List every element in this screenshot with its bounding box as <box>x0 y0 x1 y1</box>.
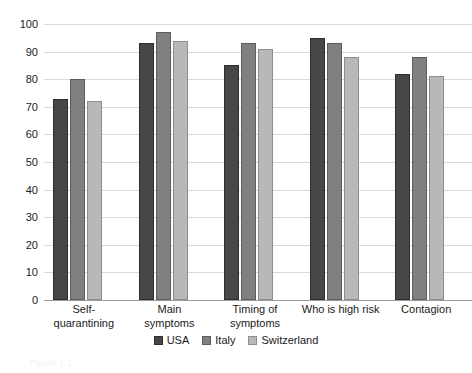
category-label-line: symptoms <box>130 316 210 330</box>
y-axis-tick-label: 90 <box>26 46 38 57</box>
bar <box>412 57 427 300</box>
category-axis-labels: Self-quarantiningMainsymptomsTiming ofsy… <box>44 302 472 330</box>
category-label: Self-quarantining <box>44 302 130 330</box>
bar <box>327 43 342 300</box>
y-axis-tick-label: 70 <box>26 101 38 112</box>
bar-group <box>130 24 216 300</box>
category-label-line: Main <box>130 302 210 316</box>
category-label-line: Self-quarantining <box>44 302 124 330</box>
bar <box>139 43 154 300</box>
legend-swatch-icon <box>202 336 211 345</box>
y-axis-tick-label: 100 <box>20 19 38 30</box>
y-axis-tick-label: 80 <box>26 74 38 85</box>
figure-caption: Figure 1.1 <box>30 358 73 368</box>
category-label-line: Contagion <box>386 302 466 316</box>
bar-group <box>44 24 130 300</box>
bar <box>241 43 256 300</box>
category-label: Who is high risk <box>301 302 387 330</box>
plot-area: 0102030405060708090100 <box>44 24 472 300</box>
axis-line-zero: 0 <box>44 300 472 301</box>
legend-item[interactable]: USA <box>154 334 190 346</box>
chart-legend: USAItalySwitzerland <box>0 334 472 346</box>
bar <box>224 65 239 300</box>
bar <box>173 41 188 300</box>
category-label-line: Timing of <box>215 302 295 316</box>
y-axis-tick-label: 20 <box>26 239 38 250</box>
y-axis-tick-label: 0 <box>32 295 38 306</box>
grouped-bar-chart: 0102030405060708090100 Self-quarantining… <box>0 0 472 373</box>
y-axis-tick-label: 60 <box>26 129 38 140</box>
bar-group <box>301 24 387 300</box>
legend-label: Italy <box>215 334 235 346</box>
category-label-line: Who is high risk <box>301 302 381 316</box>
y-axis-tick-label: 40 <box>26 184 38 195</box>
legend-swatch-icon <box>248 336 257 345</box>
bar <box>344 57 359 300</box>
bar <box>258 49 273 300</box>
category-label: Mainsymptoms <box>130 302 216 330</box>
y-axis-tick-label: 50 <box>26 157 38 168</box>
bar <box>310 38 325 300</box>
legend-label: Switzerland <box>261 334 318 346</box>
bar <box>429 76 444 300</box>
bar <box>70 79 85 300</box>
bar <box>87 101 102 300</box>
legend-item[interactable]: Italy <box>202 334 235 346</box>
bar-group <box>386 24 472 300</box>
y-axis-tick-label: 10 <box>26 267 38 278</box>
bar <box>53 99 68 300</box>
bar <box>395 74 410 300</box>
bar-group <box>215 24 301 300</box>
bar-groups <box>44 24 472 300</box>
legend-item[interactable]: Switzerland <box>248 334 318 346</box>
category-label: Timing ofsymptoms <box>215 302 301 330</box>
bar <box>156 32 171 300</box>
bars-layer <box>44 24 472 300</box>
category-label-line: symptoms <box>215 316 295 330</box>
legend-swatch-icon <box>154 336 163 345</box>
legend-label: USA <box>167 334 190 346</box>
category-label: Contagion <box>386 302 472 330</box>
y-axis-tick-label: 30 <box>26 212 38 223</box>
